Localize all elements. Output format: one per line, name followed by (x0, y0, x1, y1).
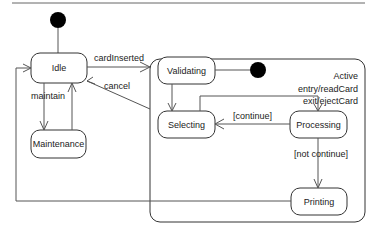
continue-guard-label: [continue] (233, 111, 272, 121)
maintenance-label: Maintenance (33, 139, 85, 149)
maintain-label: maintain (31, 91, 65, 101)
processing-label: Processing (296, 120, 341, 130)
state-processing[interactable]: Processing (290, 111, 347, 138)
state-printing[interactable]: Printing (291, 188, 347, 215)
active-entry-action: entry/readCard (298, 84, 358, 94)
transition-card-inserted: cardInserted (87, 53, 150, 72)
cancel-label: cancel (104, 81, 130, 91)
not-continue-guard-label: [not continue] (294, 149, 348, 159)
initial-pseudostate-icon (50, 12, 66, 28)
state-selecting[interactable]: Selecting (158, 111, 215, 138)
selecting-label: Selecting (168, 120, 205, 130)
transition-cancel: cancel (87, 77, 150, 109)
card-inserted-label: cardInserted (94, 53, 144, 63)
state-validating[interactable]: Validating (158, 57, 215, 84)
state-diagram: Active entry/readCard exit/ejectCard Idl… (0, 0, 373, 231)
state-maintenance[interactable]: Maintenance (31, 130, 86, 158)
validating-label: Validating (167, 66, 206, 76)
printing-label: Printing (304, 197, 335, 207)
idle-label: Idle (52, 63, 67, 73)
active-state-label: Active (333, 71, 358, 81)
active-exit-action: exit/ejectCard (303, 96, 358, 106)
inner-pseudostate-icon (250, 62, 266, 78)
transition-maintenance-to-idle (68, 83, 76, 130)
transition-maintain: maintain (31, 83, 65, 130)
state-idle[interactable]: Idle (31, 53, 87, 83)
